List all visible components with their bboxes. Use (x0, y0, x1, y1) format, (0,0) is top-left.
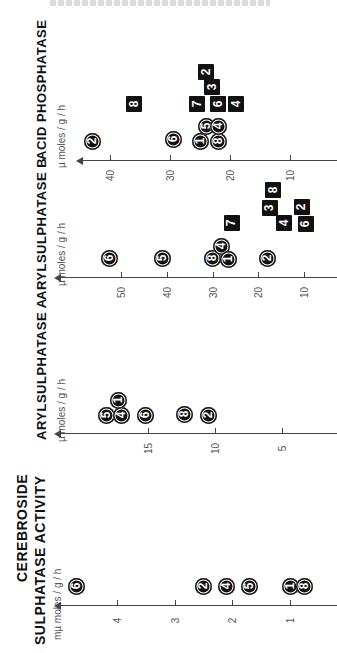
data-point-square: 7 (224, 215, 240, 231)
data-point-circle: 1 (192, 133, 209, 150)
point-label: 8 (207, 255, 219, 262)
data-point-square: 8 (265, 182, 281, 198)
point-label: 8 (298, 583, 310, 590)
axis-tick (282, 428, 283, 434)
point-label: 7 (191, 101, 203, 108)
tick-label: 10 (285, 166, 296, 186)
point-label: 8 (128, 101, 140, 108)
axis-tick (167, 272, 168, 278)
data-point-circle: 5 (154, 250, 171, 267)
point-label: 2 (296, 204, 308, 211)
data-point-square: 4 (228, 96, 244, 112)
point-label: 2 (202, 412, 214, 419)
data-point-circle: 6 (137, 407, 154, 424)
data-point-square: 2 (294, 199, 310, 215)
data-point-square: 7 (189, 96, 205, 112)
tick-label: 5 (277, 439, 288, 459)
data-point-circle: 6 (165, 131, 182, 148)
tick-label: 2 (227, 611, 238, 631)
point-label: 4 (278, 220, 290, 227)
data-point-circle: 2 (84, 133, 101, 150)
axis-tick (258, 272, 259, 278)
data-point-circle: 8 (176, 406, 193, 423)
point-label: 5 (100, 412, 112, 419)
data-point-circle: 2 (259, 250, 276, 267)
point-label: 1 (223, 256, 235, 263)
point-label: 1 (113, 397, 125, 404)
data-point-circle: 4 (210, 118, 227, 135)
data-point-circle: 4 (218, 578, 235, 595)
axis-tick (230, 155, 231, 161)
tick-label: 15 (143, 439, 154, 459)
tick-label: 10 (210, 439, 221, 459)
axis-line (58, 433, 337, 434)
cropped-header-text (50, 0, 270, 6)
tick-label: 1 (285, 611, 296, 631)
data-point-circle: 1 (220, 251, 237, 268)
point-label: 4 (230, 101, 242, 108)
axis-tick (290, 155, 291, 161)
data-point-square: 2 (198, 64, 214, 80)
point-label: 3 (264, 205, 276, 212)
point-label: 6 (104, 255, 116, 262)
point-label: 5 (244, 583, 256, 590)
axis-tick (175, 600, 176, 606)
axis-tick (304, 272, 305, 278)
title-arylsulphatase-a: ARYLSULPHATASE A (34, 298, 49, 440)
point-label: 3 (206, 84, 218, 91)
axis-arrow-icon (54, 274, 61, 282)
tick-label: 20 (225, 166, 236, 186)
data-point-square: 3 (262, 200, 278, 216)
title-arylsulphatase-b: ARYLSULPHATASE B (34, 158, 49, 300)
point-label: 4 (216, 243, 228, 250)
axis-arrow-icon (54, 602, 61, 610)
data-point-circle: 8 (210, 133, 227, 150)
axis-tick (232, 600, 233, 606)
data-point-circle: 6 (101, 250, 118, 267)
title-cerebroside-line2: SULPHATASE ACTIVITY (32, 476, 48, 645)
data-point-circle: 2 (195, 578, 212, 595)
data-point-circle: 4 (113, 407, 130, 424)
axis-tick (290, 600, 291, 606)
title-acid-phosphatase: ACID PHOSPHATASE (34, 20, 49, 160)
point-label: 6 (300, 221, 312, 228)
tick-label: 20 (253, 283, 264, 303)
tick-label: 4 (112, 611, 123, 631)
axis-tick (117, 600, 118, 606)
point-label: 4 (115, 412, 127, 419)
tick-label: 3 (169, 611, 180, 631)
tick-label: 30 (207, 283, 218, 303)
axis-tick (213, 272, 214, 278)
axis-line (80, 160, 337, 161)
data-point-square: 3 (204, 79, 220, 95)
tick-label: 40 (105, 166, 116, 186)
point-label: 2 (198, 583, 210, 590)
tick-label: 10 (299, 283, 310, 303)
data-point-square: 6 (298, 216, 314, 232)
axis-arrow-icon (54, 430, 61, 438)
axis-tick (121, 272, 122, 278)
axis-tick (148, 428, 149, 434)
title-cerebroside-line1: CEREBROSIDE (14, 474, 30, 582)
data-point-circle: 2 (200, 407, 217, 424)
data-point-circle: 6 (68, 578, 85, 595)
data-point-square: 4 (276, 215, 292, 231)
point-label: 8 (267, 187, 279, 194)
axis-tick (170, 155, 171, 161)
point-label: 4 (212, 123, 224, 130)
point-label: 5 (156, 255, 168, 262)
point-label: 4 (221, 583, 233, 590)
tick-label: 40 (161, 283, 172, 303)
axis-line (58, 277, 337, 278)
point-label: 2 (200, 69, 212, 76)
data-point-square: 8 (126, 96, 142, 112)
tick-label: 50 (116, 283, 127, 303)
data-point-circle: 1 (110, 392, 127, 409)
point-label: 6 (212, 101, 224, 108)
axis-line (58, 605, 337, 606)
point-label: 6 (71, 583, 83, 590)
data-point-square: 6 (210, 96, 226, 112)
unit-label-acid-phosphatase: µ moles / g / h (56, 105, 67, 168)
point-label: 6 (167, 136, 179, 143)
point-label: 8 (212, 138, 224, 145)
